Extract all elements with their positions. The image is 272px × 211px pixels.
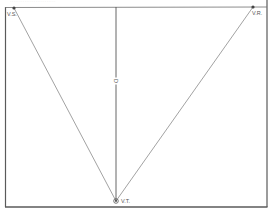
label-vs: V.S. xyxy=(7,11,17,17)
vertex-vr-point-icon xyxy=(251,5,254,8)
vertex-vt-point-icon xyxy=(115,200,117,202)
triangle-diagram: V.S. V.R. V.T. D xyxy=(0,0,272,211)
center-label: D xyxy=(113,79,119,83)
line-vs-vt xyxy=(14,8,116,201)
label-vr: V.R. xyxy=(252,10,263,16)
vertex-vs-point-icon xyxy=(12,6,15,9)
top-line xyxy=(5,7,267,8)
line-vr-vt xyxy=(116,7,253,201)
label-vt: V.T. xyxy=(121,198,130,204)
